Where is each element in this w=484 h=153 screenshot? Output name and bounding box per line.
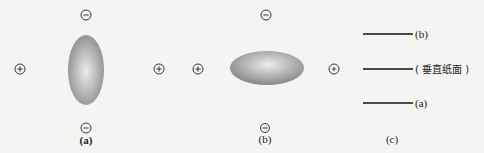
- plus-charge-left-icon: [193, 64, 203, 74]
- plus-charge-right-icon: [329, 64, 339, 74]
- minus-charge-top-icon: [81, 10, 91, 20]
- panel-b-label: (b): [259, 133, 272, 146]
- minus-charge-bottom-icon: [261, 124, 270, 133]
- line-label-perpendicular: ( 垂直纸面 ): [415, 63, 469, 75]
- panel-b: (b): [193, 10, 339, 146]
- panel-a: (a): [15, 10, 164, 147]
- panel-c: (b) ( 垂直纸面 ) (a) (c): [363, 28, 469, 146]
- diagram-canvas: (a) (b) (b) ( 垂直纸面 ) (a) (c: [0, 0, 484, 153]
- plus-charge-right-icon: [154, 64, 164, 74]
- minus-charge-bottom-icon: [81, 123, 91, 133]
- plus-charge-left-icon: [15, 64, 25, 74]
- line-label-b: (b): [415, 28, 428, 41]
- vertical-ellipse: [68, 35, 104, 105]
- panel-c-label: (c): [386, 133, 399, 146]
- line-label-a: (a): [415, 97, 428, 110]
- horizontal-ellipse: [230, 51, 304, 85]
- minus-charge-top-icon: [261, 10, 271, 20]
- panel-a-label: (a): [80, 134, 93, 147]
